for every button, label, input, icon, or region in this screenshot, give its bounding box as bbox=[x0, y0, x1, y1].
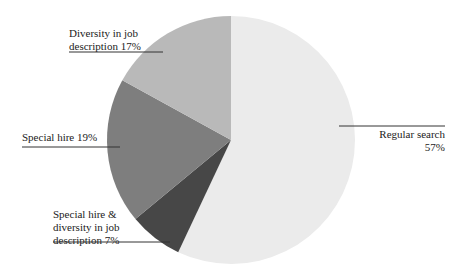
svg-text:Diversity in jobdescription 17: Diversity in jobdescription 17% bbox=[69, 27, 141, 52]
svg-text:Special hire &diversity in job: Special hire &diversity in jobdescriptio… bbox=[53, 208, 120, 246]
svg-text:Special hire 19%: Special hire 19% bbox=[22, 131, 97, 143]
svg-text:Regular search57%: Regular search57% bbox=[379, 128, 445, 153]
pie-slices bbox=[107, 16, 355, 264]
slice-label: Special hire 19% bbox=[22, 131, 120, 147]
pie-chart: Regular search57%Special hire &diversity… bbox=[0, 0, 456, 275]
